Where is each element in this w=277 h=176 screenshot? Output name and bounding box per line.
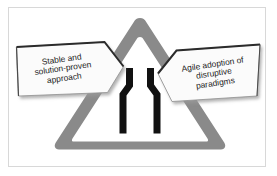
- figure-canvas: Stable and solution-proven approach Agil…: [0, 0, 277, 176]
- right-arrow-layer[interactable]: [0, 0, 277, 176]
- figure-stage: Stable and solution-proven approach Agil…: [0, 0, 277, 176]
